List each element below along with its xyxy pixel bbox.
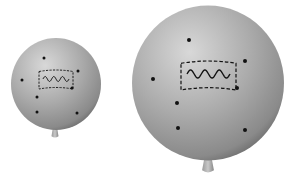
galaxy-dot — [176, 126, 180, 130]
galaxy-dot — [151, 77, 155, 81]
galaxy-dot — [187, 38, 191, 42]
galaxy-dot — [71, 87, 74, 90]
galaxy-dot — [43, 57, 46, 60]
galaxy-dot — [76, 112, 79, 115]
galaxy-dot — [77, 70, 80, 73]
balloon-body — [11, 38, 101, 130]
galaxy-dot — [36, 111, 39, 114]
galaxy-dot — [243, 128, 247, 132]
galaxy-dot — [235, 86, 239, 90]
galaxy-dot — [36, 96, 39, 99]
galaxy-dot — [21, 79, 24, 82]
balloon-illustration — [0, 0, 295, 177]
galaxy-dot — [175, 101, 179, 105]
galaxy-dot — [243, 59, 247, 63]
large-balloon — [132, 5, 284, 172]
balloon-body — [132, 5, 284, 160]
small-balloon — [11, 38, 101, 137]
